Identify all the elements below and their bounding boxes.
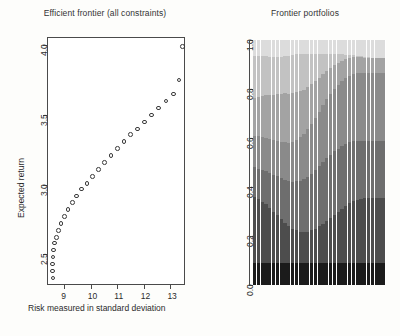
right-y-tick-label: 0.2 [245,235,255,247]
right-y-tick-label: 0.4 [245,186,255,198]
left-x-tick-label: 13 [167,291,176,301]
left-x-tick [117,285,118,289]
left-x-tick-label: 12 [141,291,150,301]
left-x-tick [144,285,145,289]
right-y-tick-label: 0.8 [245,88,255,100]
left-x-tick-label: 10 [88,291,97,301]
left-x-tick [170,285,171,289]
left-x-axis-label: Risk measured in standard deviation [28,303,166,313]
left-y-axis-label: Expected return [16,158,26,218]
left-panel: Efficient frontier (all constraints) 2.5… [0,0,200,336]
right-y-tick-label: 0.0 [245,284,255,296]
figure-canvas: Efficient frontier (all constraints) 2.5… [0,0,400,336]
right-y-axis: 0.00.20.40.60.81.0 [200,0,400,336]
left-x-tick-label: 11 [114,291,123,301]
right-y-axis-spine [249,40,250,285]
left-x-tick [64,285,65,289]
right-panel: Frontier portfolios 0.00.20.40.60.81.0 [200,0,400,336]
left-x-tick-label: 9 [61,291,66,301]
left-x-axis: 910111213 [0,0,200,336]
right-y-tick-label: 0.6 [245,137,255,149]
right-y-tick-label: 1.0 [245,39,255,51]
left-x-tick [91,285,92,289]
